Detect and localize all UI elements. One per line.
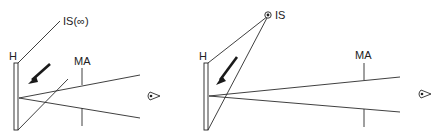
eye-icon	[148, 92, 160, 100]
ray-lower	[19, 98, 140, 118]
figure-left: H IS(∞) MA	[9, 15, 160, 130]
label-hologram: H	[199, 50, 207, 62]
label-source: IS(∞)	[63, 15, 89, 27]
figure-right: H IS MA	[199, 9, 431, 130]
eye-icon	[419, 90, 431, 98]
hologram-diagram: H IS(∞) MA H IS MA	[0, 0, 446, 135]
source-line-top	[208, 16, 268, 63]
label-hologram: H	[9, 50, 17, 62]
point-source-icon	[265, 12, 271, 18]
label-source: IS	[275, 9, 285, 21]
illumination-arrow-icon	[220, 57, 237, 80]
source-line-top	[18, 21, 60, 63]
label-aperture: MA	[74, 55, 91, 67]
ray-lower	[209, 96, 400, 112]
source-line-bottom	[208, 16, 268, 130]
ray-upper	[209, 77, 400, 96]
hologram-plate	[14, 63, 18, 130]
label-aperture: MA	[355, 49, 372, 61]
ray-upper	[19, 75, 140, 98]
hologram-plate	[204, 63, 208, 130]
